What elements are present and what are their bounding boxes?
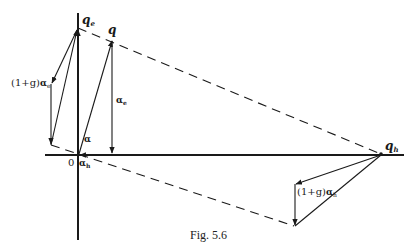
vector-left-to-qe xyxy=(51,30,77,145)
point-qh xyxy=(379,152,383,156)
dashed-qe-to-qh xyxy=(78,28,381,154)
dashed-left-to-lower-right xyxy=(51,145,294,226)
label-alpha-e: αe xyxy=(116,95,127,106)
label-alpha: α xyxy=(84,134,91,144)
label-qe: qe xyxy=(82,13,95,28)
vector-diagram: qe q qh αe α αh 0 (1+g)αe (1+g)αh xyxy=(0,0,417,252)
figure-caption: Fig. 5.6 xyxy=(0,228,417,243)
vector-qe-to-left xyxy=(52,30,77,83)
vector-qh-to-vertex xyxy=(296,155,381,184)
label-origin: 0 xyxy=(68,157,74,168)
label-one-plus-g-alpha-e: (1+g)αe xyxy=(11,77,51,89)
label-one-plus-g-alpha-h: (1+g)αh xyxy=(297,186,337,198)
label-alpha-h: αh xyxy=(79,158,91,169)
label-q: q xyxy=(108,23,116,37)
diagram-canvas: qe q qh αe α αh 0 (1+g)αe (1+g)αh xyxy=(0,0,417,252)
label-qh: qh xyxy=(385,139,398,154)
